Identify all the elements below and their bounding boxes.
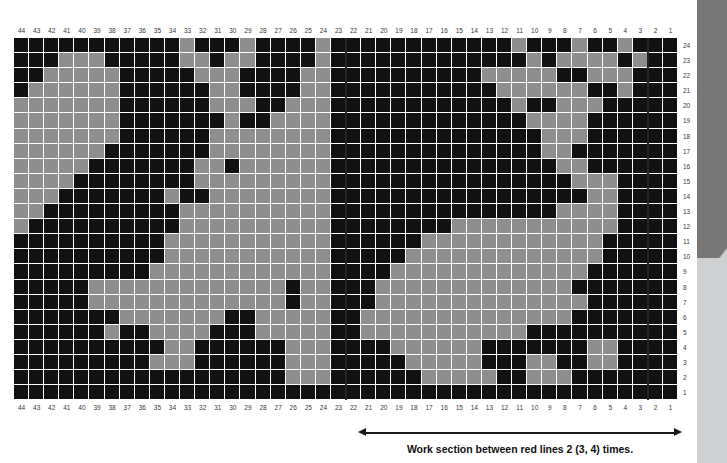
chart-cell[interactable] — [271, 234, 286, 249]
chart-cell[interactable] — [44, 295, 59, 310]
chart-cell[interactable] — [542, 113, 557, 128]
chart-cell[interactable] — [346, 249, 361, 264]
chart-cell[interactable] — [301, 129, 316, 144]
chart-cell[interactable] — [361, 129, 376, 144]
chart-cell[interactable] — [663, 68, 678, 83]
chart-cell[interactable] — [422, 280, 437, 295]
chart-cell[interactable] — [497, 159, 512, 174]
chart-cell[interactable] — [376, 385, 391, 400]
chart-cell[interactable] — [542, 370, 557, 385]
chart-cell[interactable] — [437, 144, 452, 159]
chart-cell[interactable] — [150, 325, 165, 340]
chart-cell[interactable] — [331, 310, 346, 325]
chart-cell[interactable] — [180, 83, 195, 98]
chart-cell[interactable] — [271, 144, 286, 159]
chart-cell[interactable] — [618, 295, 633, 310]
chart-cell[interactable] — [406, 249, 421, 264]
chart-cell[interactable] — [165, 38, 180, 53]
chart-cell[interactable] — [512, 295, 527, 310]
chart-cell[interactable] — [105, 370, 120, 385]
chart-cell[interactable] — [105, 68, 120, 83]
chart-cell[interactable] — [527, 113, 542, 128]
chart-cell[interactable] — [482, 280, 497, 295]
chart-cell[interactable] — [165, 295, 180, 310]
chart-cell[interactable] — [59, 174, 74, 189]
chart-cell[interactable] — [467, 234, 482, 249]
chart-cell[interactable] — [542, 264, 557, 279]
chart-cell[interactable] — [346, 98, 361, 113]
chart-cell[interactable] — [557, 264, 572, 279]
chart-cell[interactable] — [210, 53, 225, 68]
chart-cell[interactable] — [14, 219, 29, 234]
chart-cell[interactable] — [240, 385, 255, 400]
chart-cell[interactable] — [44, 340, 59, 355]
chart-cell[interactable] — [603, 295, 618, 310]
chart-cell[interactable] — [271, 340, 286, 355]
chart-cell[interactable] — [467, 249, 482, 264]
chart-cell[interactable] — [482, 370, 497, 385]
chart-cell[interactable] — [572, 264, 587, 279]
chart-cell[interactable] — [225, 159, 240, 174]
chart-cell[interactable] — [180, 234, 195, 249]
chart-cell[interactable] — [105, 38, 120, 53]
chart-cell[interactable] — [135, 144, 150, 159]
chart-cell[interactable] — [210, 234, 225, 249]
chart-cell[interactable] — [452, 98, 467, 113]
chart-cell[interactable] — [482, 325, 497, 340]
chart-cell[interactable] — [346, 264, 361, 279]
chart-cell[interactable] — [603, 159, 618, 174]
chart-cell[interactable] — [74, 325, 89, 340]
chart-cell[interactable] — [452, 280, 467, 295]
chart-cell[interactable] — [437, 310, 452, 325]
chart-cell[interactable] — [286, 204, 301, 219]
chart-cell[interactable] — [105, 234, 120, 249]
chart-cell[interactable] — [74, 219, 89, 234]
chart-cell[interactable] — [346, 219, 361, 234]
chart-cell[interactable] — [633, 174, 648, 189]
chart-cell[interactable] — [633, 159, 648, 174]
chart-cell[interactable] — [331, 340, 346, 355]
chart-cell[interactable] — [150, 370, 165, 385]
chart-cell[interactable] — [195, 144, 210, 159]
chart-cell[interactable] — [557, 159, 572, 174]
chart-cell[interactable] — [346, 355, 361, 370]
chart-cell[interactable] — [195, 83, 210, 98]
chart-cell[interactable] — [663, 38, 678, 53]
chart-cell[interactable] — [633, 234, 648, 249]
chart-cell[interactable] — [14, 295, 29, 310]
chart-cell[interactable] — [527, 325, 542, 340]
chart-cell[interactable] — [482, 264, 497, 279]
chart-cell[interactable] — [301, 234, 316, 249]
chart-cell[interactable] — [603, 370, 618, 385]
chart-cell[interactable] — [225, 98, 240, 113]
chart-cell[interactable] — [603, 204, 618, 219]
chart-cell[interactable] — [271, 385, 286, 400]
chart-cell[interactable] — [603, 68, 618, 83]
chart-cell[interactable] — [256, 159, 271, 174]
chart-cell[interactable] — [648, 129, 663, 144]
chart-cell[interactable] — [588, 370, 603, 385]
chart-cell[interactable] — [361, 53, 376, 68]
chart-cell[interactable] — [437, 68, 452, 83]
chart-cell[interactable] — [301, 159, 316, 174]
chart-cell[interactable] — [588, 219, 603, 234]
chart-cell[interactable] — [406, 340, 421, 355]
chart-cell[interactable] — [648, 83, 663, 98]
chart-cell[interactable] — [346, 280, 361, 295]
chart-cell[interactable] — [346, 144, 361, 159]
chart-cell[interactable] — [361, 295, 376, 310]
chart-cell[interactable] — [542, 98, 557, 113]
chart-cell[interactable] — [618, 83, 633, 98]
chart-cell[interactable] — [648, 340, 663, 355]
chart-cell[interactable] — [29, 189, 44, 204]
chart-cell[interactable] — [195, 204, 210, 219]
chart-cell[interactable] — [391, 280, 406, 295]
chart-cell[interactable] — [105, 280, 120, 295]
chart-cell[interactable] — [346, 129, 361, 144]
chart-cell[interactable] — [59, 159, 74, 174]
chart-cell[interactable] — [437, 295, 452, 310]
chart-cell[interactable] — [286, 385, 301, 400]
chart-cell[interactable] — [89, 219, 104, 234]
chart-cell[interactable] — [316, 249, 331, 264]
chart-cell[interactable] — [29, 204, 44, 219]
